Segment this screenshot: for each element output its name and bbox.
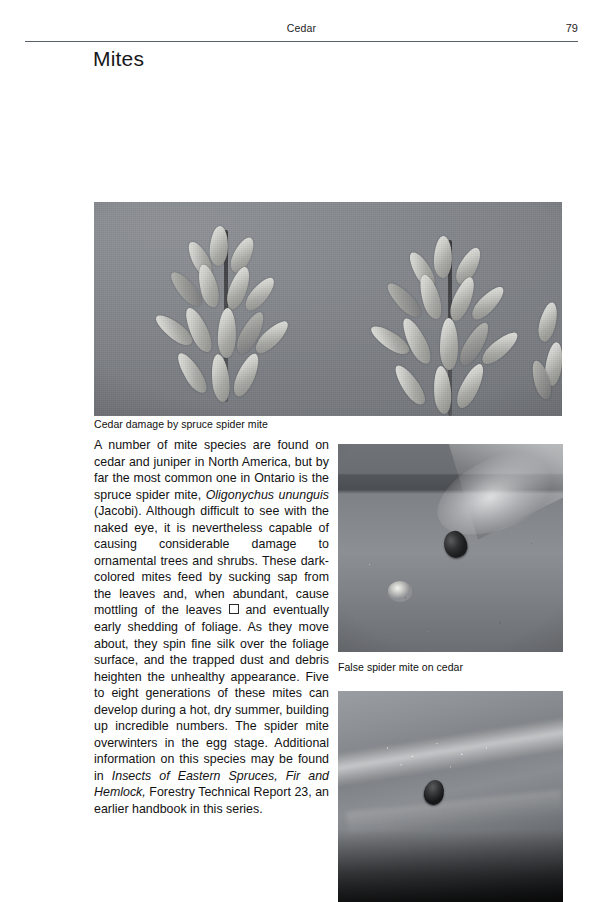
body-paragraph: A number of mite species are found on ce… (94, 437, 329, 818)
photo-vignette (338, 444, 563, 652)
false-spider-mite-photo-caption: False spider mite on cedar (338, 661, 463, 674)
mite-closeup-photo (338, 691, 563, 902)
missing-glyph-box (229, 604, 239, 614)
photo-vignette (94, 202, 562, 416)
cedar-damage-photo-caption: Cedar damage by spruce spider mite (94, 418, 268, 431)
page-title: Mites (93, 47, 144, 71)
cedar-damage-photo (94, 202, 562, 416)
running-head-title: Cedar (25, 22, 578, 34)
photo-shadow (338, 830, 563, 902)
page-number: 79 (566, 22, 578, 34)
body-text-column: A number of mite species are found on ce… (94, 437, 329, 818)
header-divider-rule (25, 41, 578, 42)
running-head: Cedar 79 (25, 22, 578, 42)
false-spider-mite-photo (338, 444, 563, 652)
body-italic-run: Insects of Eastern Spruces, Fir and Heml… (94, 769, 329, 800)
body-italic-run: Oligonychus ununguis (206, 488, 329, 502)
